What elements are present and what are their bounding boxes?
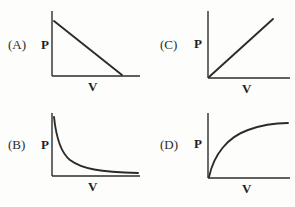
option-panel-a: (A) P V xyxy=(0,0,148,104)
y-axis-label-d: P xyxy=(194,136,202,152)
x-axis-label-d: V xyxy=(242,181,251,197)
x-axis-label-a: V xyxy=(88,79,97,95)
curve-a-decreasing-line xyxy=(54,21,122,75)
curve-d-saturating xyxy=(209,123,288,177)
curve-c-increasing-line xyxy=(209,19,273,77)
pv-diagram-question-figure: (A) P V (C) P V (B) P V xyxy=(0,0,295,207)
option-panel-d: (D) P V xyxy=(148,104,295,207)
choice-label-b: (B) xyxy=(8,137,25,153)
y-axis-label-a: P xyxy=(41,37,49,53)
curve-b-hyperbola xyxy=(54,117,138,173)
plot-b xyxy=(0,104,148,207)
y-axis-label-b: P xyxy=(41,137,49,153)
option-panel-c: (C) P V xyxy=(148,0,295,104)
plot-d xyxy=(148,104,295,207)
option-panel-b: (B) P V xyxy=(0,104,148,207)
choice-label-d: (D) xyxy=(160,137,178,153)
y-axis-label-c: P xyxy=(194,36,202,52)
x-axis-label-b: V xyxy=(88,179,97,195)
choice-label-a: (A) xyxy=(8,37,26,53)
x-axis-label-c: V xyxy=(242,81,251,97)
choice-label-c: (C) xyxy=(160,37,177,53)
